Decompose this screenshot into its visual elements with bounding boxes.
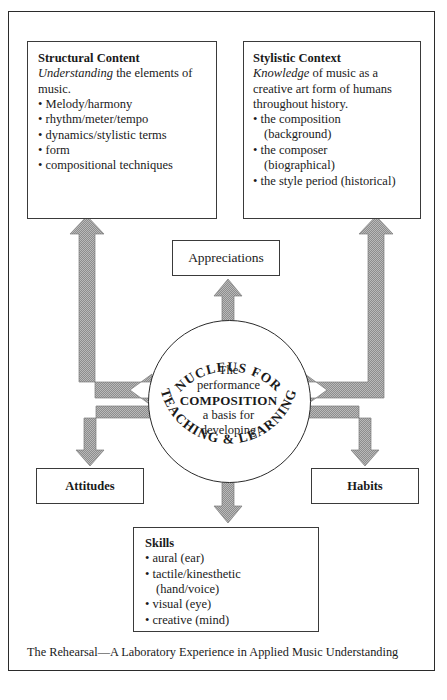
list-item: visual (eye): [145, 597, 310, 612]
box-structural-lead-italic: Understanding: [38, 66, 113, 80]
arrow-circle-to-stylistic: [305, 216, 393, 406]
list-item: rhythm/meter/tempo: [38, 112, 208, 127]
box-stylistic-context: Stylistic Context Knowledge of music as …: [243, 41, 421, 219]
box-attitudes: Attitudes: [36, 468, 144, 504]
box-appreciations: Appreciations: [172, 240, 280, 276]
list-item-continuation: (background): [253, 127, 413, 142]
box-structural-content: Structural Content Understanding the ele…: [27, 41, 217, 219]
box-skills: Skills aural (ear) tactile/kinesthetic (…: [133, 527, 319, 632]
core-line-2: performance: [197, 378, 260, 393]
diagram-figure: Structural Content Understanding the ele…: [0, 0, 447, 700]
box-habits-label: Habits: [312, 469, 418, 503]
box-habits: Habits: [311, 468, 419, 504]
list-item-continuation: (hand/voice): [145, 582, 310, 597]
box-stylistic-lead-italic: Knowledge: [253, 66, 309, 80]
list-item-continuation: (biographical): [253, 158, 413, 173]
nucleus-core-text: The performance COMPOSITION a basis for …: [148, 320, 309, 481]
arrow-circle-to-structural: [70, 216, 152, 406]
box-structural-bullets: Melody/harmony rhythm/meter/tempo dynami…: [38, 97, 208, 174]
core-line-4: a basis for: [203, 408, 254, 423]
box-skills-bullets: aural (ear) tactile/kinesthetic (hand/vo…: [145, 551, 310, 628]
list-item: tactile/kinesthetic: [145, 567, 310, 582]
box-attitudes-label: Attitudes: [37, 469, 143, 503]
list-item: the composer: [253, 143, 413, 158]
core-line-5: developing: [201, 423, 257, 438]
box-stylistic-title: Stylistic Context: [253, 51, 413, 66]
list-item: compositional techniques: [38, 158, 208, 173]
list-item: the style period (historical): [253, 174, 413, 189]
box-stylistic-bullets: the composition (background) the compose…: [253, 112, 413, 189]
core-line-3: COMPOSITION: [180, 393, 278, 409]
list-item: dynamics/stylistic terms: [38, 128, 208, 143]
arrow-circle-to-attitudes: [76, 406, 155, 466]
figure-caption: The Rehearsal—A Laboratory Experience in…: [27, 645, 427, 660]
box-stylistic-lead: Knowledge of music as a creative art for…: [253, 66, 413, 112]
box-structural-title: Structural Content: [38, 51, 208, 66]
list-item: aural (ear): [145, 551, 310, 566]
box-structural-lead: Understanding the elements of music.: [38, 66, 208, 97]
box-appreciations-label: Appreciations: [173, 241, 279, 275]
list-item: form: [38, 143, 208, 158]
box-skills-title: Skills: [145, 536, 310, 551]
arrow-circle-to-habits: [302, 406, 379, 466]
list-item: creative (mind): [145, 613, 310, 628]
list-item: Melody/harmony: [38, 97, 208, 112]
core-line-1: The: [219, 363, 238, 378]
list-item: the composition: [253, 112, 413, 127]
